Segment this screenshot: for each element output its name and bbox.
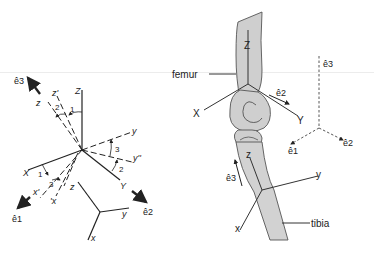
label-Z: Z <box>74 86 81 96</box>
ref-axis-e2 <box>319 128 343 140</box>
knee-joint-diagram <box>204 12 343 240</box>
ref-label-e1: ê1 <box>288 146 298 156</box>
small-frame-label-y: y <box>121 209 127 219</box>
label-e1: ê1 <box>12 214 22 224</box>
tibia-label-e3: ê3 <box>226 173 236 183</box>
vector-e2-arrow <box>132 191 146 202</box>
femur-label-Y: Y <box>297 115 304 126</box>
ref-label-e3: ê3 <box>323 59 333 69</box>
label-Y: Y <box>120 181 127 191</box>
small-frame-label-z: z <box>69 182 75 192</box>
angle-label-2-top: 2 <box>55 103 60 112</box>
angle-label-1-left: 1 <box>38 170 43 179</box>
label-y-double-prime: y'' <box>132 153 141 163</box>
femur-label-e2: ê2 <box>276 88 286 98</box>
tibia-axis-x <box>240 190 262 230</box>
femur-condyle <box>230 90 271 132</box>
angle-label-1-top: 1 <box>70 105 75 114</box>
label-x-prime: x' <box>32 187 40 197</box>
axis-x-alt-dashed <box>56 153 78 196</box>
vector-e3-arrow <box>28 78 40 94</box>
angle-label-2-right: 2 <box>119 165 124 174</box>
tibia-label-y: y <box>316 169 321 180</box>
vector-e1-arrow <box>18 197 30 208</box>
angle-label-3-left: 3 <box>49 180 54 189</box>
small-frame-label-x: x <box>90 233 96 243</box>
tibia-label-x: x <box>235 223 240 234</box>
label-y: y <box>131 126 137 136</box>
reference-frame <box>291 56 343 144</box>
label-z: z <box>35 98 41 108</box>
tibia-label: tibia <box>311 218 330 229</box>
label-e2: ê2 <box>143 207 153 217</box>
axis-y-dashed <box>82 132 132 150</box>
tibia-label-z: z <box>246 149 251 160</box>
label-z-prime: z' <box>51 88 59 98</box>
femur-label-X: X <box>193 108 200 119</box>
angle-label-3-right: 3 <box>115 145 120 154</box>
small-frame-z <box>78 182 100 212</box>
label-e3: ê3 <box>14 76 24 86</box>
joint-coordinate-diagram: Z X Y z z' y y'' x' 'x 1 2 3 2 1 3 ê3 ê1… <box>0 0 374 254</box>
label-x-alt: 'x <box>50 196 57 206</box>
angle-arc-2-top <box>56 114 66 117</box>
axis-z-dashed <box>48 102 82 150</box>
ref-label-e2: ê2 <box>343 138 353 148</box>
ref-axis-e1 <box>291 128 319 144</box>
femur-label: femur <box>172 69 198 80</box>
femur-label-Z: Z <box>244 40 250 51</box>
angle-arc-3-right <box>110 140 111 156</box>
label-X: X <box>22 168 30 178</box>
angle-arc-2-right <box>112 160 117 171</box>
angle-arc-1-left <box>42 164 48 175</box>
